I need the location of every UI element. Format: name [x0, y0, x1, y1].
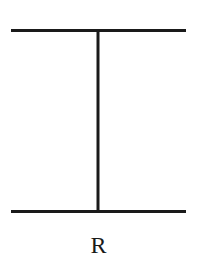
figure-label: R — [0, 232, 197, 258]
diagram-canvas: R — [0, 0, 197, 268]
i-beam-figure — [0, 0, 197, 268]
